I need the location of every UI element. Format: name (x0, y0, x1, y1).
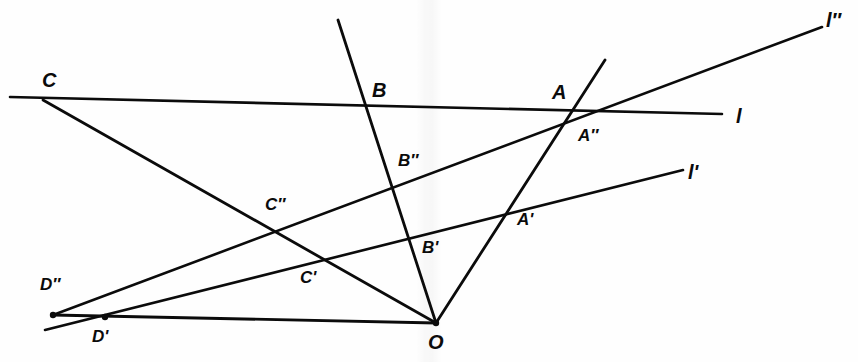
point-label-a: A (552, 82, 566, 102)
point-label-b: B (372, 80, 386, 100)
diagram-canvas: CBAA″B″C″A'B'C'D″D'Oll'l″ (0, 0, 858, 362)
point-label-dp: D' (92, 328, 108, 345)
point-label-dpp: D″ (40, 276, 60, 293)
point-marker-dpp (50, 312, 56, 318)
point-label-ap: A' (517, 211, 533, 228)
ray-O-C (43, 100, 436, 323)
point-label-c: C (42, 70, 56, 90)
point-label-o: O (428, 332, 444, 352)
line-label-lpp: l″ (826, 10, 841, 30)
point-label-cpp: C″ (265, 196, 285, 213)
line-label-lp: l' (688, 162, 698, 182)
geometry-drawing (0, 0, 858, 362)
line-l-prime (45, 170, 683, 330)
point-label-cp: C' (300, 269, 316, 286)
point-label-bpp: B″ (398, 152, 418, 169)
line-label-l: l (736, 106, 742, 126)
point-label-bp: B' (422, 239, 438, 256)
point-marker-o (433, 320, 439, 326)
ray-O-A (436, 60, 605, 323)
point-label-app: A″ (578, 127, 598, 144)
ray-O-B (338, 20, 436, 323)
point-marker-dp (102, 314, 108, 320)
ray-O-D (53, 315, 436, 323)
